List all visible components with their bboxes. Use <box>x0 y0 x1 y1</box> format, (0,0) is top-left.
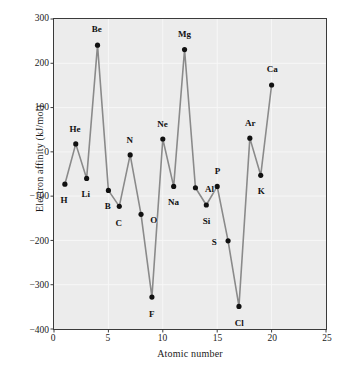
data-point-label: C <box>116 218 123 227</box>
data-point-label: K <box>258 187 265 196</box>
x-tick-label: 25 <box>307 333 341 343</box>
data-point-label: Si <box>203 217 211 226</box>
data-point-label: P <box>215 167 221 176</box>
data-point-label: He <box>69 124 80 133</box>
data-point-label: Be <box>92 25 102 34</box>
x-axis-tick-labels: 0510152025 <box>53 333 327 347</box>
y-axis-title: Electron affinity (kJ/mol) <box>34 59 45 259</box>
data-point-label: Ca <box>267 65 278 74</box>
data-point-label: Mg <box>178 29 191 38</box>
data-point-label: H <box>60 196 67 205</box>
x-tick-label: 20 <box>252 333 292 343</box>
point-labels-layer: HHeLiBeBCNOFNeNaMgAlSiPSClArKCa <box>53 18 327 330</box>
data-point-label: N <box>126 135 133 144</box>
x-tick-label: 15 <box>197 333 237 343</box>
electron-affinity-chart: 3002001000−100−200−300−400 HHeLiBeBCNOFN… <box>0 0 341 367</box>
data-point-label: Li <box>82 190 91 199</box>
x-tick-label: 5 <box>88 333 128 343</box>
data-point-label: B <box>105 202 111 211</box>
data-point-label: Ne <box>157 119 168 128</box>
x-axis-title: Atomic number <box>53 348 327 359</box>
data-point-label: Na <box>168 198 179 207</box>
y-tick-label: 300 <box>3 13 49 23</box>
x-tick-label: 10 <box>143 333 183 343</box>
data-point-label: Al <box>205 184 214 193</box>
data-point-label: O <box>150 215 157 224</box>
data-point-label: Cl <box>235 319 244 328</box>
y-tick-label: −300 <box>3 280 49 290</box>
x-tick-label: 0 <box>33 333 73 343</box>
data-point-label: F <box>149 309 155 318</box>
data-point-label: S <box>212 238 217 247</box>
data-point-label: Ar <box>245 118 256 127</box>
